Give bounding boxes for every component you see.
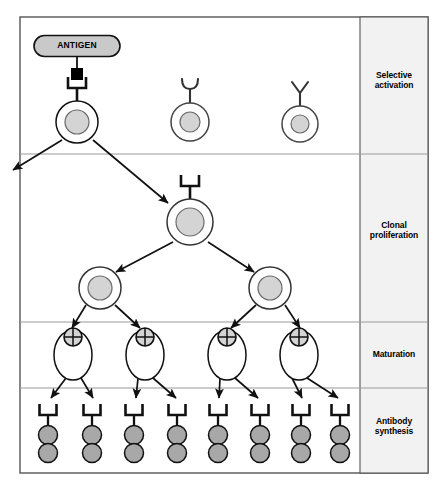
stage-label-panel	[360, 17, 428, 473]
antibody-1-body-upper	[39, 426, 58, 445]
arrow-plasma3-ab5	[219, 378, 220, 398]
clone-parent-nucleus	[176, 208, 204, 236]
antibody-4-body-upper	[168, 426, 187, 445]
lymphocyte-u-nucleus	[180, 112, 200, 132]
antibody-5-body-upper	[209, 426, 228, 445]
antibody-1-body-lower	[39, 444, 58, 463]
clone-right	[249, 267, 291, 309]
lymphocyte-matching-nucleus	[65, 110, 89, 134]
clone-right-nucleus	[258, 276, 282, 300]
antibody-2-body-upper	[83, 426, 102, 445]
antibody-2-body-lower	[83, 444, 102, 463]
clone-left-nucleus	[88, 276, 112, 300]
antibody-8-body-lower	[331, 444, 350, 463]
antibody-3-body-upper	[125, 426, 144, 445]
antibody-5-body-lower	[209, 444, 228, 463]
antibody-6-body-lower	[251, 444, 270, 463]
lymphocyte-y-nucleus	[291, 115, 309, 133]
antigen-epitope-square	[72, 69, 83, 80]
antibody-6-body-upper	[251, 426, 270, 445]
antibody-7-body-lower	[292, 444, 311, 463]
antibody-4-body-lower	[168, 444, 187, 463]
clone-left	[79, 267, 121, 309]
antibody-7-body-upper	[292, 426, 311, 445]
antigen-pill	[34, 36, 120, 57]
antibody-3-body-lower	[125, 444, 144, 463]
clonal-selection-diagram	[0, 0, 447, 488]
antibody-8-body-upper	[331, 426, 350, 445]
